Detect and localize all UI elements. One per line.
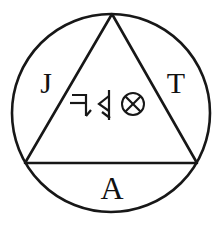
- glyph-circled-x-group: [122, 93, 144, 115]
- glyph-chevron-group: [99, 90, 110, 120]
- letter-t: T: [167, 66, 185, 99]
- letter-a: A: [100, 170, 123, 206]
- hooked-seven-glyph: [72, 95, 86, 116]
- sigil-canvas: J T A: [0, 0, 223, 229]
- chevron-arm-icon: [99, 96, 109, 111]
- glyph-hook-group: [70, 95, 91, 116]
- sigil-figure: J T A: [0, 0, 223, 229]
- letter-j: J: [40, 66, 52, 99]
